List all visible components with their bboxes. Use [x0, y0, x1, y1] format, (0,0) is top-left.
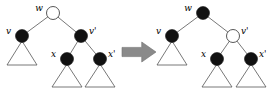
transformation-arrow — [122, 42, 156, 62]
left-tree-before: wvv'xx' — [6, 3, 116, 87]
node-label-w: w — [184, 3, 192, 13]
node-label-x: x — [51, 49, 56, 59]
tree-node-v-black — [16, 30, 29, 43]
node-label-xprime: x' — [259, 49, 267, 59]
right-tree-after: wvv'xx' — [156, 3, 267, 87]
tree-node-vprime-white — [227, 30, 240, 43]
tree-node-v-black — [166, 30, 179, 43]
tree-node-x-black — [211, 53, 224, 66]
subtree-triangle-x-subtree — [52, 64, 82, 87]
tree-transformation-figure: wvv'xx' wvv'xx' — [0, 0, 276, 90]
subtree-triangle-xprime-subtree — [236, 64, 266, 87]
node-label-v: v — [6, 26, 11, 36]
tree-node-vprime-black — [75, 30, 88, 43]
subtree-triangle-v-subtree — [157, 41, 187, 65]
node-label-vprime: v' — [89, 26, 97, 36]
right-arrow-icon — [122, 42, 156, 62]
tree-node-xprime-black — [245, 53, 258, 66]
tree-node-w-black — [197, 7, 210, 20]
node-label-vprime: v' — [241, 26, 249, 36]
diagram-canvas: wvv'xx' wvv'xx' — [0, 0, 276, 90]
tree-node-w-white — [47, 7, 60, 20]
node-label-w: w — [35, 3, 43, 13]
node-label-v: v — [156, 26, 161, 36]
node-label-x: x — [201, 49, 206, 59]
tree-node-x-black — [61, 53, 74, 66]
subtree-triangle-xprime-subtree — [85, 64, 115, 87]
subtree-triangle-v-subtree — [7, 41, 37, 65]
tree-node-xprime-black — [94, 53, 107, 66]
node-label-xprime: x' — [108, 49, 116, 59]
subtree-triangle-x-subtree — [202, 64, 232, 87]
